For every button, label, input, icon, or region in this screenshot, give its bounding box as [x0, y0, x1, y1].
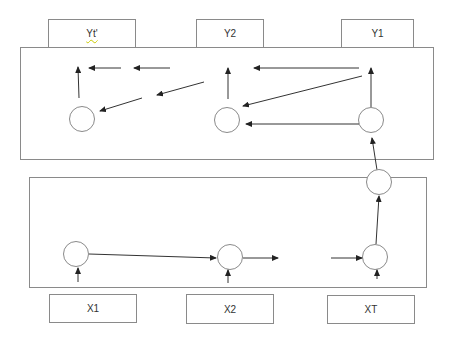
encoder-node-1 — [64, 242, 89, 267]
arrow-context-to-node1 — [372, 138, 377, 170]
arrow-enc1-to-enc2 — [89, 254, 216, 258]
decoder-node-3 — [70, 107, 95, 132]
arrow-y1-to-node2-diag — [243, 76, 362, 106]
arrow-diag-1 — [157, 82, 204, 95]
encoder-node-t — [363, 245, 388, 270]
arrow-node3-to-output — [78, 67, 79, 98]
encoder-node-2 — [218, 245, 243, 270]
arrow-enct-to-context — [376, 196, 379, 244]
arrow-diag-2 — [100, 98, 142, 111]
decoder-node-2 — [215, 108, 240, 133]
diagram-canvas — [0, 0, 450, 339]
decoder-node-1 — [359, 108, 384, 133]
context-node — [367, 170, 392, 195]
